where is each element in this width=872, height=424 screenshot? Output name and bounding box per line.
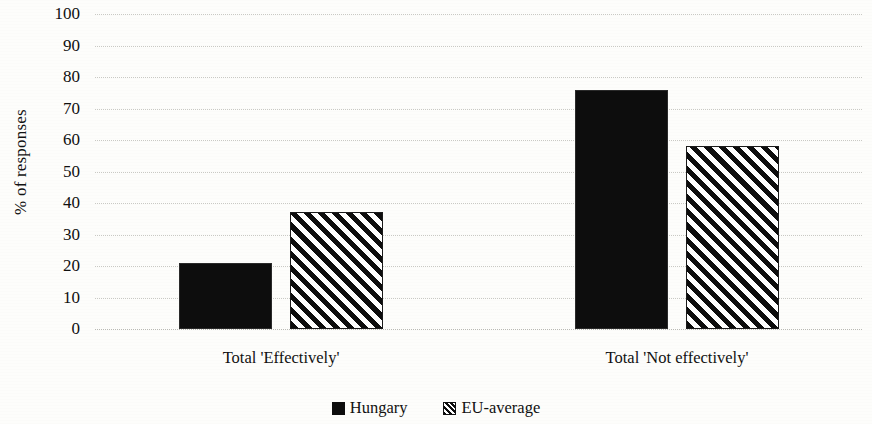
y-axis-tick-label: 50 bbox=[28, 163, 80, 180]
y-axis-tick-label: 70 bbox=[28, 100, 80, 117]
y-axis-tick-label: 80 bbox=[28, 68, 80, 85]
legend-item: EU-average bbox=[443, 398, 540, 418]
y-axis-tick-label: 20 bbox=[28, 257, 80, 274]
legend-label: Hungary bbox=[350, 398, 408, 418]
bar-eu-average-1 bbox=[686, 146, 779, 329]
bar-hungary-0 bbox=[179, 263, 272, 329]
x-axis-category-label: Total 'Effectively' bbox=[131, 348, 431, 368]
gridline bbox=[95, 109, 862, 110]
legend-label: EU-average bbox=[461, 398, 540, 418]
gridline bbox=[95, 14, 862, 15]
solid-square-icon bbox=[332, 402, 345, 415]
y-axis-tick-label: 40 bbox=[28, 194, 80, 211]
striped-square-icon bbox=[443, 402, 456, 415]
x-axis-category-label: Total 'Not effectively' bbox=[527, 348, 827, 368]
gridline bbox=[95, 77, 862, 78]
y-axis-tick-label: 0 bbox=[28, 320, 80, 337]
bar-eu-average-0 bbox=[290, 212, 383, 329]
y-axis-tick-label: 90 bbox=[28, 37, 80, 54]
chart-legend: HungaryEU-average bbox=[0, 398, 872, 418]
y-axis-tick-labels: 1009080706050403020100 bbox=[28, 14, 80, 329]
gridline bbox=[95, 140, 862, 141]
y-axis-tick-label: 10 bbox=[28, 289, 80, 306]
bar-chart: % of responses 1009080706050403020100 To… bbox=[0, 0, 872, 424]
legend-item: Hungary bbox=[332, 398, 408, 418]
gridline bbox=[95, 329, 862, 330]
y-axis-tick-label: 100 bbox=[28, 5, 80, 22]
y-axis-tick-label: 60 bbox=[28, 131, 80, 148]
plot-area bbox=[95, 14, 862, 329]
bar-hungary-1 bbox=[575, 90, 668, 329]
y-axis-tick-label: 30 bbox=[28, 226, 80, 243]
gridline bbox=[95, 46, 862, 47]
